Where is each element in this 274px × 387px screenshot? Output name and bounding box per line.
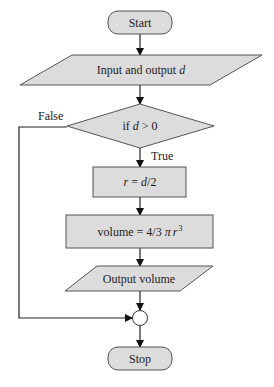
start-label: Start [129, 16, 152, 30]
decision-node: if d > 0 [67, 104, 214, 148]
input-node: Input and output d [20, 55, 262, 85]
output-node: Output volume [65, 266, 213, 291]
radius-node: r = d/2 [93, 167, 186, 197]
flowchart: Start Input and output d if d > 0 False … [0, 0, 274, 387]
true-label: True [151, 149, 173, 163]
radius-label: r = d/2 [124, 175, 157, 189]
volume-label: volume = 4/3 πr3 [98, 224, 183, 239]
start-node: Start [108, 11, 172, 34]
volume-node: volume = 4/3 πr3 [66, 215, 213, 248]
stop-label: Stop [129, 352, 151, 366]
false-label: False [38, 109, 63, 123]
output-label: Output volume [103, 272, 175, 286]
stop-node: Stop [108, 347, 172, 370]
input-label: Input and output d [97, 63, 186, 77]
decision-label: if d > 0 [122, 119, 157, 133]
join-connector [133, 311, 148, 326]
